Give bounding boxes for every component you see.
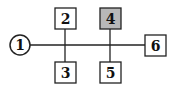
node-5-label: 5: [106, 65, 116, 81]
node-1: 1: [10, 35, 30, 55]
node-2-label: 2: [61, 11, 71, 27]
node-1-label: 1: [15, 37, 25, 53]
node-3: 3: [55, 62, 76, 83]
tree-diagram: 1 2 3 4 5 6: [0, 0, 175, 91]
node-2: 2: [55, 8, 76, 29]
node-4: 4: [100, 8, 121, 29]
node-3-label: 3: [61, 65, 71, 81]
node-6-label: 6: [151, 38, 161, 54]
node-5: 5: [100, 62, 121, 83]
node-6: 6: [145, 35, 166, 56]
node-4-label: 4: [106, 11, 116, 27]
